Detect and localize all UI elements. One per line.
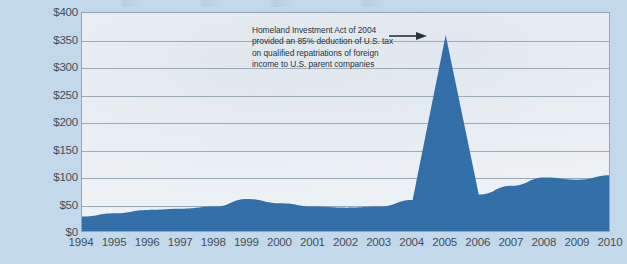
x-axis: 1994199519961997199819992000200120022003… xyxy=(81,236,610,256)
y-axis-tick-label: $400 xyxy=(4,7,78,18)
y-axis-tick-label: $200 xyxy=(4,117,78,128)
annotation-homeland-investment-act: Homeland Investment Act of 2004provided … xyxy=(252,25,404,71)
arrow-right-icon xyxy=(389,31,427,41)
annotation-line: provided an 85% deduction of U.S. tax xyxy=(252,36,404,47)
scan-artifact-strip xyxy=(0,0,622,7)
y-axis-tick-label: $50 xyxy=(4,200,78,211)
y-axis: $0$50$100$150$200$250$300$350$400 xyxy=(0,0,78,264)
annotation-line: Homeland Investment Act of 2004 xyxy=(252,25,404,36)
y-axis-tick-label: $300 xyxy=(4,62,78,73)
y-axis-tick-label: $100 xyxy=(4,172,78,183)
annotation-line: on qualified repatriations of foreign xyxy=(252,48,404,59)
y-axis-tick-label: $250 xyxy=(4,90,78,101)
annotation-line: income to U.S. parent companies xyxy=(252,59,404,70)
x-axis-tick-label: 2010 xyxy=(588,236,627,248)
y-axis-tick-label: $350 xyxy=(4,35,78,46)
y-axis-tick-label: $150 xyxy=(4,145,78,156)
